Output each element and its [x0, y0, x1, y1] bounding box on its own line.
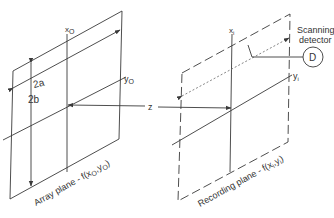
- label-z: z: [148, 102, 153, 112]
- label-yi: yi: [293, 71, 299, 82]
- detector-label-line1: Scanning: [297, 25, 334, 35]
- detector-symbol: D: [309, 52, 316, 63]
- z-axis-to-array: [68, 105, 145, 106]
- scan-path: [182, 38, 289, 96]
- label-xi: xi: [229, 26, 234, 36]
- array-y-axis: [3, 77, 126, 140]
- label-2a: 2a: [32, 76, 46, 89]
- recording-plane-caption: Recording plane - f(xi,yi): [196, 153, 286, 209]
- scanning-detector: D Scanning detector: [297, 25, 334, 67]
- diagram-canvas: 2a 2b xO yO Array plane - f(xO,yO) z xi: [0, 0, 334, 218]
- recording-y-axis: [172, 75, 292, 145]
- detector-probe: [248, 45, 252, 57]
- label-x0: xO: [65, 25, 75, 35]
- array-plane: 2a 2b xO yO Array plane - f(xO,yO): [3, 11, 135, 209]
- label-2b: 2b: [28, 94, 40, 105]
- recording-plane: xi yi Recording plane - f(xi,yi): [172, 14, 303, 210]
- z-axis-to-recording: [158, 107, 231, 108]
- recording-x-axis: [230, 34, 232, 172]
- label-y0: yO: [124, 74, 135, 85]
- z-axis: z: [68, 102, 231, 112]
- array-plane-caption: Array plane - f(xO,yO): [32, 158, 112, 209]
- detector-label-line2: detector: [299, 35, 332, 45]
- dimension-2a-arrow: [13, 30, 120, 88]
